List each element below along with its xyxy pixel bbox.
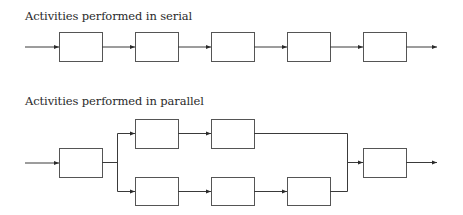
parallel-start-activity-box [60,149,103,178]
serial-flow [25,33,437,62]
serial-activity-box-2 [136,33,179,62]
top-branch-activity-box-1 [136,120,179,149]
top-branch-activity-box-2 [212,120,255,149]
serial-activity-box-4 [288,33,331,62]
parallel-end-activity-box [364,149,407,178]
activity-flow-diagram [0,0,463,215]
parallel-flow [25,120,437,206]
serial-activity-box-3 [212,33,255,62]
serial-activity-box-1 [60,33,103,62]
serial-activity-box-5 [364,33,407,62]
bottom-branch-activity-box-1 [136,178,179,206]
bottom-branch-activity-box-2 [212,178,255,206]
bottom-branch-activity-box-3 [288,178,331,206]
